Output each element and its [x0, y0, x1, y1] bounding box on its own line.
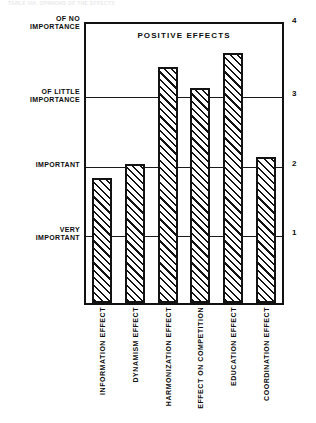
- bar-5: [223, 53, 243, 303]
- x-tick-slot-2: DYNAMISM EFFECT: [119, 307, 152, 419]
- x-tick-slot-4: EFFECT ON COMPETITION: [184, 307, 217, 419]
- bar-chart-figure: TABLE VIII. OPINIONS OF THE EFFECTS OF N…: [0, 0, 316, 423]
- y-axis-tick-3: 3: [292, 89, 306, 98]
- clipped-top-caption: TABLE VIII. OPINIONS OF THE EFFECTS: [8, 0, 228, 7]
- x-axis-label-6: COORDINATION EFFECT: [262, 307, 269, 401]
- plot-area: POSITIVE EFFECTS: [84, 22, 284, 305]
- bar-1: [92, 178, 112, 303]
- y-axis-label-of-little-importance: OF LITTLE IMPORTANCE: [6, 88, 80, 104]
- x-tick-slot-1: INFORMATION EFFECT: [86, 307, 119, 419]
- x-tick-slot-5: EDUCATION EFFECT: [217, 307, 250, 419]
- x-tick-slot-3: HARMONIZATION EFFECT: [151, 307, 184, 419]
- bar-6: [256, 157, 276, 303]
- x-axis-labels: INFORMATION EFFECTDYNAMISM EFFECTHARMONI…: [84, 307, 284, 419]
- x-axis-label-1: INFORMATION EFFECT: [99, 307, 106, 395]
- bar-3: [158, 67, 178, 303]
- x-axis-label-5: EDUCATION EFFECT: [229, 307, 236, 386]
- y-axis-label-of-no-importance: OF NO IMPORTANCE: [6, 15, 80, 31]
- y-axis-label-important: IMPORTANT: [6, 161, 80, 169]
- x-axis-label-4: EFFECT ON COMPETITION: [197, 307, 204, 409]
- bar-4: [190, 88, 210, 303]
- x-tick-slot-6: COORDINATION EFFECT: [249, 307, 282, 419]
- x-axis-label-3: HARMONIZATION EFFECT: [164, 307, 171, 406]
- y-axis-tick-1: 1: [292, 228, 306, 237]
- bar-2: [125, 164, 145, 303]
- y-axis-tick-2: 2: [292, 159, 306, 168]
- bar-series: [86, 24, 282, 303]
- y-axis-label-very-important: VERY IMPORTANT: [6, 226, 80, 242]
- y-axis-tick-4: 4: [292, 16, 306, 25]
- x-axis-label-2: DYNAMISM EFFECT: [131, 307, 138, 383]
